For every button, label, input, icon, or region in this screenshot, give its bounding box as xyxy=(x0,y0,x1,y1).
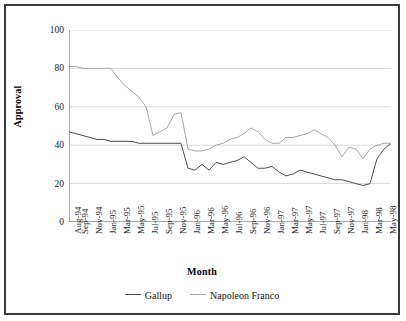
x-tick-label: May-96 xyxy=(220,206,230,235)
plot-area: 020406080100Aug-94Sep-94Nov-94Jan-95Mar-… xyxy=(69,30,391,222)
x-tick-label: Sep-97 xyxy=(332,209,342,235)
y-tick-label: 40 xyxy=(55,140,65,150)
x-tick-label: Jan-95 xyxy=(108,210,118,234)
x-tick-label: Mar-98 xyxy=(374,207,384,234)
x-tick-label: Jan-98 xyxy=(360,210,370,234)
x-tick-label: Jul-96 xyxy=(234,212,244,235)
x-tick-label: May-98 xyxy=(388,206,398,235)
x-axis-title: Month xyxy=(6,266,398,277)
x-tick-label: Nov-95 xyxy=(178,207,188,235)
x-tick-label: Nov-94 xyxy=(94,207,104,235)
legend-label: Gallup xyxy=(145,290,172,301)
legend-line-icon xyxy=(190,294,206,295)
x-tick-label: Nov-97 xyxy=(346,207,356,235)
legend-line-icon xyxy=(125,294,141,295)
y-tick-label: 60 xyxy=(55,102,65,112)
plot-svg xyxy=(69,30,391,222)
x-tick-label: Jan-96 xyxy=(192,210,202,234)
y-tick-label: 100 xyxy=(50,25,64,35)
x-tick-label: Mar-96 xyxy=(206,207,216,234)
y-tick-label: 0 xyxy=(59,217,64,227)
y-tick-label: 20 xyxy=(55,179,65,189)
legend-item[interactable]: Napoleon Franco xyxy=(190,289,279,301)
x-tick-label: May-97 xyxy=(304,206,314,235)
x-tick-label: Sep-96 xyxy=(248,209,258,235)
x-tick-label: Jul-97 xyxy=(318,212,328,235)
chart-legend: GallupNapoleon Franco xyxy=(6,289,398,301)
x-tick-label: Jul-95 xyxy=(150,212,160,235)
y-tick-label: 80 xyxy=(55,63,65,73)
legend-label: Napoleon Franco xyxy=(210,290,279,301)
x-tick-label: May-95 xyxy=(136,206,146,235)
y-axis-title: Approval xyxy=(12,72,23,142)
x-tick-label: Nov-96 xyxy=(262,207,272,235)
x-tick-label: Jan-97 xyxy=(276,210,286,234)
x-tick-label: Mar-97 xyxy=(290,207,300,234)
chart-frame: Approval 020406080100Aug-94Sep-94Nov-94J… xyxy=(4,4,400,315)
x-tick-label: Mar-95 xyxy=(122,207,132,234)
chart-figure: Approval 020406080100Aug-94Sep-94Nov-94J… xyxy=(6,6,398,313)
x-tick-label: Sep-95 xyxy=(164,209,174,235)
x-tick-label: Sep-94 xyxy=(80,209,90,235)
legend-item[interactable]: Gallup xyxy=(125,289,172,301)
